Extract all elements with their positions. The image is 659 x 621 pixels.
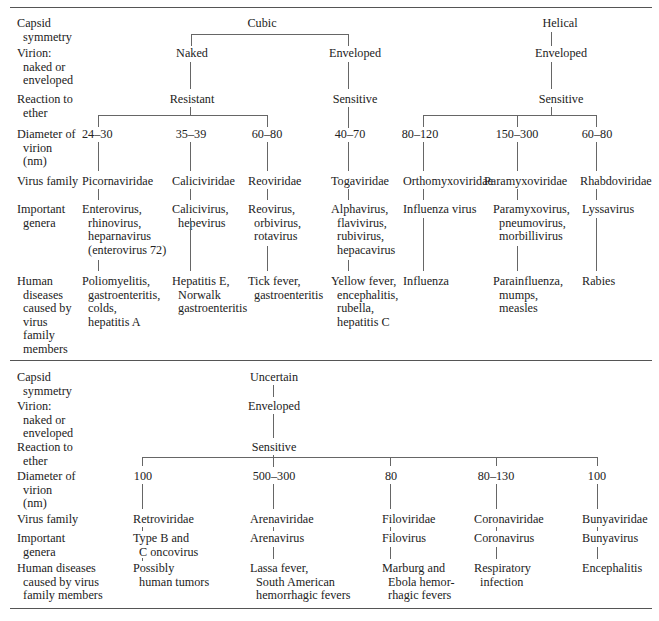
- top-rule: [10, 7, 652, 8]
- genera-reoviridae: Reovirus, orbivirus, rotavirus: [248, 203, 301, 244]
- diameter-paramyxoviridae: 150–300: [496, 128, 539, 142]
- connector: [348, 189, 349, 200]
- diseases-bunyaviridae: Encephalitis: [582, 562, 642, 576]
- genera-coronaviridae: Coronavirus: [474, 532, 534, 546]
- diameter-reoviridae: 60–80: [252, 128, 282, 142]
- label-reaction-ether: Reaction to ether: [17, 93, 73, 120]
- connector: [597, 547, 598, 559]
- connector: [98, 142, 99, 171]
- diseases-paramyxoviridae: Parainfluenza, mumps, measles: [493, 275, 563, 316]
- diameter-coronaviridae: 80–130: [478, 470, 515, 484]
- family-filoviridae: Filoviridae: [382, 513, 435, 527]
- genera-caliciviridae: Calicivirus, hepevirus: [172, 203, 229, 230]
- connector: [597, 457, 598, 466]
- diseases-picornaviridae: Poliomyelitis, gastroenteritis, colds, h…: [82, 275, 160, 329]
- genera-rhabdoviridae: Lyssavirus: [582, 203, 634, 217]
- family-togaviridae: Togaviridae: [331, 175, 389, 189]
- node-helical: Helical: [542, 17, 577, 31]
- connector: [273, 414, 274, 438]
- connector: [348, 62, 349, 89]
- family-retroviridae: Retroviridae: [133, 513, 194, 527]
- connector: [551, 32, 552, 46]
- node-enveloped-helical: Enveloped: [535, 47, 587, 61]
- connector: [98, 115, 268, 116]
- connector: [597, 484, 598, 509]
- connector: [551, 107, 552, 116]
- diseases-rhabdoviridae: Rabies: [582, 275, 615, 289]
- connector: [496, 484, 497, 509]
- connector: [348, 260, 349, 271]
- connector: [596, 218, 597, 271]
- connector: [98, 189, 99, 200]
- diseases-retroviridae: Possibly human tumors: [133, 562, 209, 589]
- connector: [517, 189, 518, 200]
- diameter-filoviridae: 80: [385, 470, 397, 484]
- connector: [551, 62, 552, 89]
- diseases-orthomyxoviridae: Influenza: [403, 275, 449, 289]
- connector: [98, 260, 99, 271]
- diameter-bunyaviridae: 100: [588, 470, 606, 484]
- connector: [273, 547, 274, 559]
- connector: [390, 484, 391, 509]
- connector: [517, 142, 518, 171]
- connector: [142, 457, 143, 466]
- node-cubic: Cubic: [247, 17, 276, 31]
- label-capsid-symmetry: Capsid symmetry: [17, 17, 72, 44]
- diameter-caliciviridae: 35–39: [176, 128, 206, 142]
- connector: [190, 189, 191, 200]
- label-important-genera: Important genera: [17, 203, 65, 230]
- label-virus-family: Virus family: [17, 175, 78, 189]
- diameter-picornaviridae: 24–30: [82, 128, 112, 142]
- connector: [191, 34, 349, 35]
- label-virus-family-2: Virus family: [17, 513, 78, 527]
- diameter-togaviridae: 40–70: [335, 128, 365, 142]
- connector: [191, 34, 192, 46]
- label-reaction-ether-2: Reaction to ether: [17, 441, 73, 468]
- node-sensitive-cubic: Sensitive: [333, 93, 378, 107]
- genera-arenaviridae: Arenavirus: [250, 532, 304, 546]
- family-reoviridae: Reoviridae: [248, 175, 301, 189]
- connector: [190, 107, 191, 116]
- connector: [190, 62, 191, 89]
- family-coronaviridae: Coronaviridae: [474, 513, 544, 527]
- diseases-togaviridae: Yellow fever, encephalitis, rubella, hep…: [331, 275, 398, 329]
- connector: [273, 484, 274, 509]
- diseases-filoviridae: Marburg and Ebola hemor- rhagic fevers: [382, 562, 455, 603]
- middle-rule: [10, 360, 652, 361]
- connector: [267, 142, 268, 171]
- diseases-caliciviridae: Hepatitis E, Norwalk gastroenteritis: [172, 275, 247, 316]
- connector: [348, 34, 349, 46]
- label-diameter: Diameter of virion (nm): [17, 128, 76, 169]
- family-orthomyxoviridae: Orthomyxoviridae: [403, 175, 493, 189]
- label-virion: Virion: naked or enveloped: [17, 47, 73, 88]
- family-picornaviridae: Picornaviridae: [82, 175, 153, 189]
- genera-togaviridae: Alphavirus, flavivirus, rubivirus, hepac…: [331, 203, 395, 257]
- connector: [142, 484, 143, 509]
- connector: [273, 455, 274, 467]
- genera-bunyaviridae: Bunyavirus: [582, 532, 638, 546]
- diameter-retroviridae: 100: [134, 470, 152, 484]
- connector: [190, 142, 191, 171]
- connector: [267, 246, 268, 271]
- family-caliciviridae: Caliciviridae: [172, 175, 235, 189]
- connector: [348, 107, 349, 128]
- label-capsid-symmetry-2: Capsid symmetry: [17, 371, 72, 398]
- bottom-rule: [10, 608, 652, 609]
- diseases-reoviridae: Tick fever, gastroenteritis: [248, 275, 323, 302]
- label-human-diseases: Human diseases caused by virus family me…: [17, 275, 72, 356]
- diameter-rhabdoviridae: 60–80: [582, 128, 612, 142]
- diseases-coronaviridae: Respiratory infection: [474, 562, 531, 589]
- connector: [517, 115, 518, 127]
- label-human-diseases-2: Human diseases caused by virus family me…: [17, 562, 103, 603]
- node-enveloped-cubic: Enveloped: [329, 47, 381, 61]
- diseases-arenaviridae: Lassa fever, South American hemorrhagic …: [250, 562, 351, 603]
- label-virion-2: Virion: naked or enveloped: [17, 400, 73, 441]
- connector: [267, 115, 268, 127]
- node-sensitive-helical: Sensitive: [539, 93, 584, 107]
- connector: [423, 115, 597, 116]
- genera-retroviridae: Type B and C oncovirus: [133, 532, 198, 559]
- connector: [142, 457, 598, 458]
- connector: [423, 142, 424, 171]
- connector: [496, 457, 497, 466]
- connector: [267, 189, 268, 200]
